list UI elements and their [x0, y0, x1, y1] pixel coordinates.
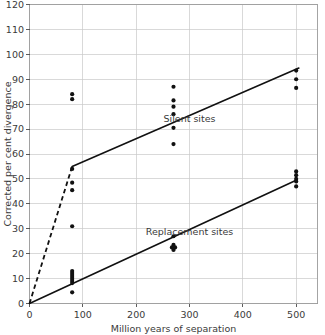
series-label-replacement-sites: Replacement sites [146, 226, 234, 237]
y-axis-tick-label: 110 [6, 24, 24, 35]
y-axis-tick-label: 0 [18, 298, 24, 309]
y-axis-tick-label: 20 [12, 248, 24, 259]
data-point [171, 98, 175, 102]
y-axis-tick-label: 10 [12, 273, 24, 284]
scatter-chart-figure: 0102030405060708090100110120010020030040… [0, 0, 325, 335]
trend-line-dashed [30, 166, 73, 303]
data-point [70, 281, 74, 285]
data-point [70, 290, 74, 294]
data-point [171, 248, 175, 252]
y-axis-tick-label: 60 [12, 148, 24, 159]
data-point [171, 142, 175, 146]
data-point [70, 92, 74, 96]
y-axis-tick-label: 100 [6, 49, 24, 60]
data-point [171, 105, 175, 109]
chart-canvas: 0102030405060708090100110120010020030040… [0, 0, 325, 335]
data-point [70, 97, 74, 101]
x-axis-title: Million years of separation [111, 323, 237, 334]
y-axis-tick-label: 50 [12, 173, 24, 184]
y-axis-title: Corrected per cent divergence [2, 81, 13, 226]
y-axis-tick-label: 120 [6, 0, 24, 10]
x-axis-tick-label: 400 [234, 309, 252, 320]
data-point [70, 167, 74, 171]
x-axis-tick-label: 300 [180, 309, 198, 320]
data-point [294, 68, 298, 72]
y-axis-tick-label: 70 [12, 123, 24, 134]
trend-line-solid [30, 180, 297, 303]
data-point [294, 169, 298, 173]
data-point [294, 184, 298, 188]
y-axis-tick-label: 80 [12, 99, 24, 110]
series-label-silent-sites: Silent sites [163, 113, 215, 124]
y-axis-tick-label: 40 [12, 198, 24, 209]
data-point [70, 181, 74, 185]
y-axis-tick-label: 30 [12, 223, 24, 234]
x-axis-tick-label: 100 [74, 309, 92, 320]
y-axis-tick-label: 90 [12, 74, 24, 85]
x-axis-tick-label: 0 [26, 309, 32, 320]
data-point [294, 77, 298, 81]
data-point [294, 86, 298, 90]
x-axis-tick-label: 200 [127, 309, 145, 320]
data-point [294, 179, 298, 183]
x-axis-tick-label: 500 [287, 309, 305, 320]
data-point [70, 224, 74, 228]
data-point [171, 85, 175, 89]
data-point [294, 173, 298, 177]
data-point [171, 126, 175, 130]
data-point [70, 188, 74, 192]
